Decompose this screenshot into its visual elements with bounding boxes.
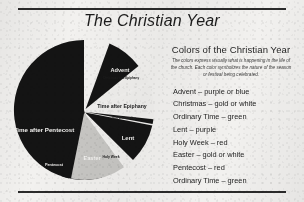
pie-label-easter: Easter (83, 155, 101, 161)
pie-label-advent: Advent (111, 67, 130, 73)
list-item: Ordinary Time – green (173, 111, 299, 124)
pie-label-time-after-epiphany: Time after Epiphany (97, 103, 147, 109)
pie-label-lent: Lent (122, 135, 135, 141)
legend-note: The colors express visually what is happ… (169, 58, 293, 79)
pie-label-ash-wednesday: Ash Wednesday (112, 116, 136, 120)
pie-chart: Time after Pentecost Advent Christmas an… (8, 34, 160, 186)
list-item: Advent – purple or blue (173, 86, 299, 99)
legend-panel: Colors of the Christian Year The colors … (163, 44, 299, 188)
slide-page: The Christian Year (0, 0, 304, 202)
bottom-divider-rule (18, 191, 286, 193)
list-item: Pentecost – red (173, 162, 299, 175)
top-divider-rule (18, 8, 286, 10)
list-item: Holy Week – red (173, 137, 299, 150)
pie-label-christmas: Christmas and Epiphany (103, 76, 140, 80)
legend-heading: Colors of the Christian Year (163, 44, 299, 55)
pie-label-pentecost: Pentecost (45, 163, 64, 167)
pie-chart-svg: Time after Pentecost Advent Christmas an… (8, 34, 160, 186)
list-item: Christmas – gold or white (173, 98, 299, 111)
pie-label-holy-week: Holy Week (102, 155, 119, 159)
list-item: Lent – purple (173, 124, 299, 137)
page-title: The Christian Year (0, 12, 304, 30)
list-item: Easter – gold or white (173, 149, 299, 162)
pie-label-time-after-pentecost: Time after Pentecost (14, 126, 75, 133)
legend-list: Advent – purple or blue Christmas – gold… (163, 86, 299, 188)
list-item: Ordinary Time – green (173, 175, 299, 188)
